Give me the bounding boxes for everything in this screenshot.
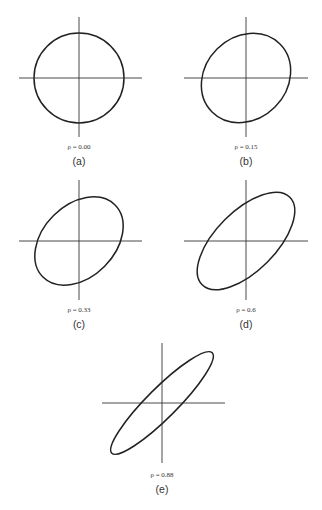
rho-label-c: ρ = 0.33 <box>39 306 119 314</box>
panel-a <box>19 17 142 137</box>
rho-label-b: ρ = 0.15 <box>206 143 286 151</box>
panel-label-c: (c) <box>39 318 119 330</box>
panel-label-d: (d) <box>206 318 286 330</box>
panel-label-b: (b) <box>206 155 286 167</box>
rho-label-d: ρ = 0.6 <box>206 306 286 314</box>
panel-b <box>183 15 309 141</box>
panel-c <box>17 179 142 302</box>
rho-label-e: ρ = 0.88 <box>122 471 202 479</box>
panel-label-e: (e) <box>122 483 202 495</box>
panel-label-a: (a) <box>39 155 119 167</box>
rho-label-a: ρ = 0.00 <box>39 143 119 151</box>
correlation-ellipses-figure <box>0 0 322 510</box>
panel-e <box>101 342 225 464</box>
panel-d <box>181 176 311 306</box>
